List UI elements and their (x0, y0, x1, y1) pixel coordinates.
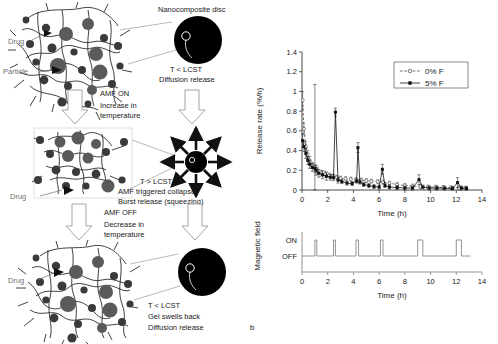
legend-label-0: 0% F (425, 67, 444, 76)
stage-mid-line1: AMF triggered collapse (118, 187, 195, 196)
data-point (358, 181, 361, 184)
data-point (388, 186, 391, 189)
drug-pointer-bottom (38, 268, 64, 280)
amf-off-line1: Decrease in (104, 220, 144, 229)
label-drug-mid: Drug (10, 192, 26, 201)
amf-on-line1: Increase in (100, 101, 137, 110)
data-point (443, 187, 446, 190)
y-tick-label: 0 (293, 186, 297, 195)
data-point (356, 146, 359, 149)
collapsed-disc-burst (162, 128, 230, 196)
y-tick-label: 0.2 (287, 166, 297, 175)
y-label-on: ON (286, 236, 297, 245)
x-tick-label: 4 (351, 195, 355, 204)
leader-lines-top (120, 22, 176, 64)
data-point (349, 178, 352, 181)
data-point (340, 180, 343, 183)
amf-on-heading: AMF ON (100, 89, 129, 98)
mechanism-diagram-svg: Drug Particle Nanocomposite disc T (0, 0, 248, 344)
data-point (311, 166, 314, 169)
stage-mid-condition: T > LCST (140, 177, 173, 186)
data-point (337, 179, 340, 182)
y-tick-label: 0.4 (287, 146, 297, 155)
stage-bottom-condition: T < LCST (148, 301, 181, 310)
y-axis-title: Magnetic field (253, 221, 262, 270)
x-tick-label: 14 (478, 277, 486, 286)
data-point (325, 175, 328, 178)
data-point (373, 185, 376, 188)
panel-label-b: b (250, 323, 255, 332)
data-point (332, 176, 335, 179)
legend-label-1: 5% F (425, 79, 444, 88)
data-point (460, 187, 463, 190)
data-point (428, 187, 431, 190)
label-drug-bottom: Drug (8, 276, 24, 285)
release-rate-chart: 00.20.40.60.811.21.402468101214Time (h)R… (255, 48, 486, 218)
x-tick-label: 12 (452, 195, 460, 204)
data-point (317, 172, 320, 175)
data-point (308, 163, 311, 166)
amf-off-heading: AMF OFF (104, 208, 137, 217)
data-point (304, 152, 307, 155)
data-point (396, 186, 399, 189)
x-tick-label: 4 (351, 277, 355, 286)
stage-top-description: Diffusion release (159, 75, 215, 84)
data-point (365, 179, 368, 182)
x-tick-label: 6 (377, 277, 381, 286)
label-particle: Particle (3, 67, 28, 76)
y-tick-label: 0.6 (287, 126, 297, 135)
nanocomposite-disc-bottom (178, 248, 226, 296)
x-tick-label: 0 (300, 195, 304, 204)
data-point (418, 178, 421, 181)
y-label-off: OFF (282, 252, 297, 261)
y-tick-label: 1.4 (287, 48, 297, 57)
field-waveform (302, 240, 470, 256)
data-point (378, 186, 381, 189)
data-point (411, 187, 414, 190)
charts-panel: 00.20.40.60.811.21.402468101214Time (h)R… (244, 0, 498, 344)
x-tick-label: 8 (403, 277, 407, 286)
x-tick-label: 2 (326, 277, 330, 286)
data-point (421, 186, 424, 189)
data-point (419, 185, 422, 188)
charts-svg: 00.20.40.60.811.21.402468101214Time (h)R… (244, 0, 498, 344)
stage-bottom-gel-network: Drug (8, 240, 140, 344)
stage-top-condition: T < LCST (170, 65, 203, 74)
data-point (456, 181, 459, 184)
mechanism-diagram-panel: Drug Particle Nanocomposite disc T (0, 0, 248, 344)
x-tick-label: 0 (300, 277, 304, 286)
data-point (301, 99, 304, 102)
figure-root: Drug Particle Nanocomposite disc T (0, 0, 498, 344)
leader-lines-bottom (130, 254, 180, 300)
x-tick-label: 2 (326, 195, 330, 204)
x-tick-label: 10 (426, 277, 434, 286)
data-point (388, 182, 391, 185)
data-point (346, 182, 349, 185)
magnetic-field-chart: ONOFF02468101214Time (h)Magnetic field (253, 221, 486, 300)
x-tick-label: 8 (403, 195, 407, 204)
legend-marker-1 (408, 81, 411, 84)
data-point (362, 183, 365, 186)
x-tick-label: 6 (377, 195, 381, 204)
data-point (302, 127, 305, 130)
data-point (344, 177, 347, 180)
stage-mid-gel-network: Drug (10, 128, 132, 201)
data-point (451, 187, 454, 190)
data-point (301, 139, 304, 142)
x-axis-title: Time (h) (377, 209, 407, 218)
data-point (329, 176, 332, 179)
data-point (321, 173, 324, 176)
y-tick-label: 0.8 (287, 107, 297, 116)
x-axis-title: Time (h) (377, 291, 407, 300)
data-point (302, 145, 305, 148)
data-point (306, 159, 309, 162)
y-axis-title: Release rate (%/h) (255, 87, 264, 154)
particles-stage-bottom (33, 255, 134, 343)
stage-bottom-line2: Diffusion release (148, 323, 204, 332)
x-tick-label: 10 (426, 195, 434, 204)
data-point (334, 111, 337, 114)
data-point (381, 168, 384, 171)
data-point (355, 180, 358, 183)
y-tick-label: 1.2 (287, 67, 297, 76)
label-drug-top: Drug (8, 37, 24, 46)
